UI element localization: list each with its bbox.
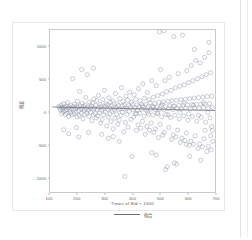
scatter-point bbox=[111, 135, 115, 139]
scatter-point bbox=[205, 149, 209, 153]
scatter-point bbox=[180, 33, 184, 37]
scatter-point bbox=[194, 102, 198, 106]
scatter-point bbox=[132, 93, 136, 97]
y-axis-ticks: 10005000-500-1000 bbox=[21, 29, 48, 193]
scatter-point bbox=[178, 84, 182, 88]
scatter-point bbox=[168, 116, 172, 120]
scatter-point bbox=[101, 98, 105, 102]
scatter-point bbox=[207, 40, 211, 44]
figure-card: 残差 10005000-500-1000 1002003004005006007… bbox=[12, 22, 225, 211]
scatter-point bbox=[70, 77, 74, 81]
scatter-point bbox=[163, 78, 167, 82]
scatter-point bbox=[122, 130, 126, 134]
scatter-point bbox=[114, 112, 118, 116]
scatter-point bbox=[152, 101, 156, 105]
scatter-point bbox=[117, 118, 121, 122]
scatter-point bbox=[169, 137, 173, 141]
scatter-point bbox=[123, 174, 127, 178]
x-tick-mark bbox=[49, 193, 50, 195]
scatter-point bbox=[167, 125, 171, 129]
y-tick-label: -1000 bbox=[35, 175, 46, 180]
scatter-point bbox=[196, 147, 200, 151]
scatter-point bbox=[140, 119, 144, 123]
scatter-point bbox=[179, 107, 183, 111]
scatter-point bbox=[166, 107, 170, 111]
scatter-point bbox=[201, 95, 205, 99]
x-tick-mark bbox=[160, 193, 161, 195]
scatter-point bbox=[119, 86, 123, 90]
scatter-point bbox=[102, 88, 106, 92]
scatter-point bbox=[132, 115, 136, 119]
scatter-point bbox=[207, 51, 211, 55]
scatter-point bbox=[158, 67, 162, 71]
x-tick-mark bbox=[104, 193, 105, 195]
scatter-point bbox=[196, 96, 200, 100]
scatter-point bbox=[88, 100, 92, 104]
scatter-point bbox=[167, 75, 171, 79]
y-tick-label: -500 bbox=[38, 142, 46, 147]
scatter-point bbox=[127, 109, 131, 113]
scatter-point bbox=[142, 114, 146, 118]
scatter-point bbox=[141, 82, 145, 86]
scatter-point bbox=[173, 86, 177, 90]
scatter-point bbox=[184, 142, 188, 146]
scatter-point bbox=[124, 94, 128, 98]
scatter-point bbox=[105, 124, 109, 128]
scatter-point bbox=[195, 119, 199, 123]
scatter-point bbox=[87, 114, 91, 118]
scatter-point bbox=[113, 116, 117, 120]
x-tick-mark bbox=[132, 193, 133, 195]
scatter-point bbox=[192, 47, 196, 51]
plot-area bbox=[49, 29, 216, 193]
scatter-point bbox=[178, 140, 182, 144]
scatter-point bbox=[145, 90, 149, 94]
scatter-point bbox=[191, 103, 195, 107]
scatter-point bbox=[96, 93, 100, 97]
scatter-point bbox=[184, 131, 188, 135]
legend-label: 拟合 bbox=[144, 212, 152, 218]
scatter-point bbox=[90, 119, 94, 123]
scatter-point bbox=[189, 64, 193, 68]
scatter-point bbox=[116, 122, 120, 126]
scatter-point bbox=[106, 136, 110, 140]
scatter-point bbox=[154, 127, 158, 131]
scatter-point bbox=[193, 134, 197, 138]
scatter-point bbox=[188, 97, 192, 101]
scatter-point bbox=[128, 90, 132, 94]
scatter-point bbox=[165, 90, 169, 94]
scatter-point bbox=[192, 96, 196, 100]
scatter-point bbox=[182, 83, 186, 87]
scatter-point bbox=[147, 128, 151, 132]
scatter-plot-svg bbox=[50, 30, 215, 192]
y-tick-label: 0 bbox=[44, 110, 46, 115]
scatter-point bbox=[210, 105, 214, 109]
scatter-point bbox=[179, 98, 183, 102]
scatter-point bbox=[202, 55, 206, 59]
scatter-point bbox=[107, 96, 111, 100]
scatter-point bbox=[111, 127, 115, 131]
scatter-point bbox=[100, 117, 104, 121]
scatter-point bbox=[117, 139, 121, 143]
scatter-point bbox=[149, 121, 153, 125]
scatter-point bbox=[133, 106, 137, 110]
chart-legend: 拟合 bbox=[73, 209, 193, 220]
scatter-point bbox=[210, 128, 214, 132]
x-axis-title: Times of Bid × 1000 bbox=[49, 201, 216, 206]
scatter-point bbox=[183, 97, 187, 101]
scatter-point bbox=[123, 120, 127, 124]
legend-line-swatch bbox=[114, 214, 140, 215]
scatter-point bbox=[162, 108, 166, 112]
scatter-point bbox=[104, 102, 108, 106]
scatter-point bbox=[91, 66, 95, 70]
scatter-point bbox=[185, 68, 189, 72]
scatter-point bbox=[204, 120, 208, 124]
scatter-point bbox=[118, 96, 122, 100]
y-tick-label: 1000 bbox=[37, 44, 46, 49]
scatter-point bbox=[62, 128, 66, 132]
scatter-point bbox=[173, 113, 177, 117]
scatter-point bbox=[127, 103, 131, 107]
scatter-point bbox=[202, 137, 206, 141]
scatter-point bbox=[198, 61, 202, 65]
scatter-points bbox=[57, 30, 215, 179]
scatter-point bbox=[171, 133, 175, 137]
